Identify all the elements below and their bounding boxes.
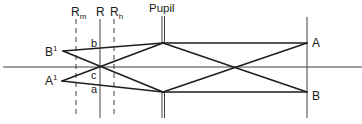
label-image-b1: B1 — [45, 44, 58, 59]
label-object-b: B — [312, 89, 320, 103]
label-object-a: A — [312, 36, 320, 50]
optics-ray-diagram: Rm R Rh Pupil A B B1 A1 b c a — [0, 0, 362, 124]
label-retina-hyperopic: Rh — [110, 5, 123, 21]
label-retina: R — [96, 5, 105, 19]
label-image-a1: A1 — [45, 73, 58, 88]
label-point-c: c — [91, 69, 97, 81]
label-point-a: a — [91, 83, 98, 95]
label-pupil: Pupil — [149, 2, 175, 14]
label-point-b: b — [91, 37, 97, 49]
label-retina-myopic: Rm — [71, 5, 87, 21]
